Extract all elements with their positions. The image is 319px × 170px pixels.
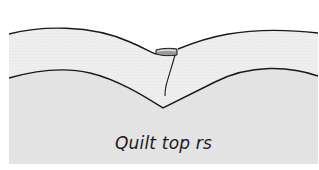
fold-tab [156, 48, 177, 55]
quilt-top-rs-label: Quilt top rs [0, 133, 319, 153]
